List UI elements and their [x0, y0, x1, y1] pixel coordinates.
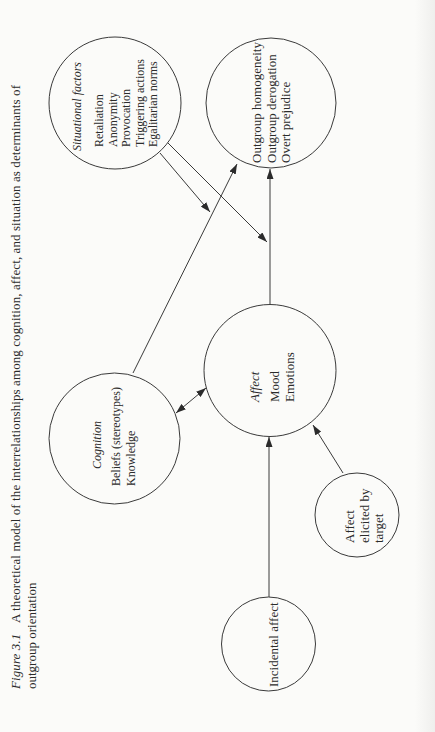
cognition-item: Knowledge	[124, 431, 138, 486]
affect-item: Emotions	[282, 352, 297, 402]
outcome-item: Overt prejudice	[278, 82, 293, 163]
edges	[133, 143, 343, 597]
arrow-cognition-to-outcome	[133, 164, 237, 373]
situational-title: Situational factors	[70, 62, 84, 151]
cognition-title: Cognition	[90, 421, 104, 469]
node-outgroup-outcomes: Outgroup homogeneity Outgroup derogation…	[206, 38, 336, 168]
situational-item: Egalitarian norms	[146, 61, 160, 147]
outcome-item: Outgroup derogation	[264, 54, 279, 163]
elicited-line: elicited by	[357, 488, 372, 543]
arrow-cognition-affect-bidirectional	[176, 388, 206, 413]
caption-line-2: outgroup orientation	[24, 582, 39, 689]
node-cognition: Cognition Beliefs (stereotypes) Knowledg…	[49, 373, 180, 504]
affect-title: Affect	[247, 371, 262, 403]
caption-figure-label: Figure 3.1	[8, 634, 23, 690]
node-affect-elicited-by-target: Affect elicited by target	[315, 473, 399, 557]
cognition-item: Beliefs (stereotypes)	[109, 387, 123, 486]
arrow-elicited-to-affect	[313, 425, 343, 473]
elicited-line: target	[371, 513, 386, 543]
situational-item: Triggering actions	[133, 59, 147, 147]
situational-item: Provocation	[119, 89, 133, 147]
figure-page: Figure 3.1 A theoretical model of the in…	[0, 0, 435, 732]
node-affect: Affect Mood Emotions	[204, 305, 336, 437]
outcome-item: Outgroup homogeneity	[249, 42, 264, 163]
arrow-situational-to-cognition-path	[160, 153, 210, 212]
affect-circle	[204, 305, 336, 437]
situational-item: Retaliation	[92, 94, 106, 147]
caption-text: A theoretical model of the interrelation…	[8, 84, 23, 623]
affect-item: Mood	[267, 370, 282, 402]
situational-item: Anonymity	[106, 92, 120, 147]
elicited-line: Affect	[342, 510, 357, 543]
node-incidental-affect: Incidental affect	[222, 597, 316, 691]
caption-line-1: Figure 3.1 A theoretical model of the in…	[8, 84, 23, 690]
diagram-canvas: Figure 3.1 A theoretical model of the in…	[0, 0, 435, 732]
figure-caption: Figure 3.1 A theoretical model of the in…	[8, 84, 39, 690]
incidental-label: Incidental affect	[266, 602, 281, 687]
node-situational-factors: Situational factors Retaliation Anonymit…	[49, 37, 181, 169]
